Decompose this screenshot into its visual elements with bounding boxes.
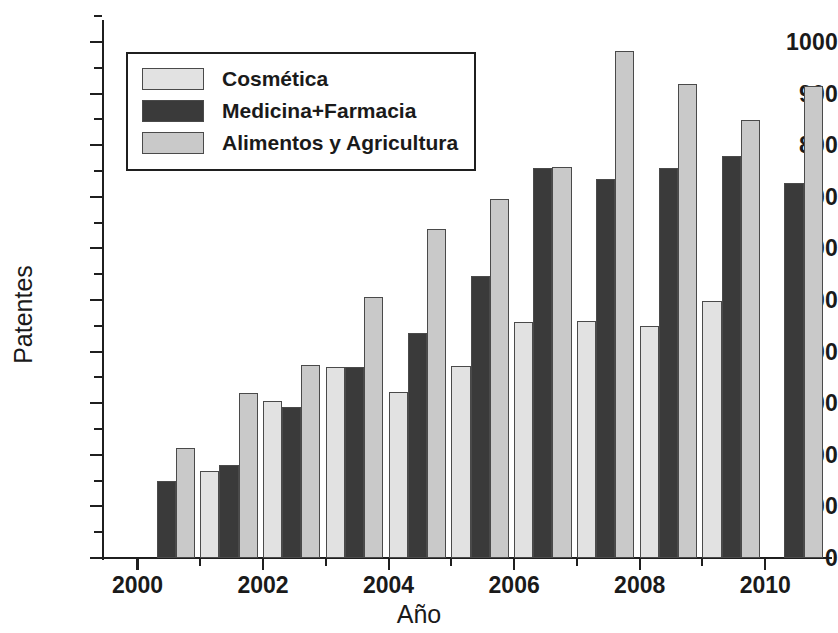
x-tick-major (764, 559, 766, 570)
x-tick-minor (450, 559, 452, 566)
legend-item: Cosmética (142, 63, 464, 95)
chart-legend: CosméticaMedicina+FarmaciaAlimentos y Ag… (126, 52, 476, 171)
legend-swatch-icon (142, 100, 204, 122)
legend-label: Alimentos y Agricultura (222, 131, 458, 155)
y-tick-major (90, 93, 102, 95)
bar (239, 393, 258, 558)
y-tick-minor (94, 273, 102, 275)
bar (741, 120, 760, 558)
y-tick-major (90, 247, 102, 249)
bar (596, 179, 615, 558)
legend-label: Cosmética (222, 67, 328, 91)
y-tick-major (90, 351, 102, 353)
bar (471, 276, 490, 558)
y-tick-minor (94, 67, 102, 69)
y-tick-major (90, 505, 102, 507)
x-tick-minor (576, 559, 578, 566)
legend-swatch-icon (142, 68, 204, 90)
y-tick-major (90, 557, 102, 559)
bar (451, 366, 470, 558)
legend-item: Medicina+Farmacia (142, 95, 464, 127)
x-tick-label: 2010 (710, 572, 820, 599)
bar (533, 168, 552, 558)
bar (784, 183, 803, 558)
bar (176, 448, 195, 558)
bar (659, 168, 678, 558)
x-tick-minor (701, 559, 703, 566)
x-tick-label: 2000 (83, 572, 193, 599)
y-tick-minor (94, 118, 102, 120)
legend-swatch-icon (142, 132, 204, 154)
bar (615, 51, 634, 558)
x-tick-minor (325, 559, 327, 566)
legend-item: Alimentos y Agricultura (142, 127, 464, 159)
bar (722, 156, 741, 558)
x-tick-minor (199, 559, 201, 566)
x-tick-label: 2006 (459, 572, 569, 599)
x-tick-label: 2004 (334, 572, 444, 599)
legend-label: Medicina+Farmacia (222, 99, 416, 123)
y-tick-major (90, 41, 102, 43)
bar (408, 333, 427, 558)
x-tick-major (639, 559, 641, 570)
x-tick-label: 2002 (208, 572, 318, 599)
bar (678, 84, 697, 558)
y-tick-minor (94, 531, 102, 533)
y-tick-minor (94, 15, 102, 17)
bar (345, 367, 364, 558)
bar (301, 365, 320, 559)
bar (490, 199, 509, 558)
bar (263, 401, 282, 558)
y-tick-minor (94, 325, 102, 327)
x-tick-label: 2008 (585, 572, 695, 599)
bar (640, 326, 659, 558)
x-tick-major (513, 559, 515, 570)
bar (326, 367, 345, 558)
x-tick-major (262, 559, 264, 570)
patents-bar-chart: 01002003004005006007008009001000 2000200… (0, 0, 838, 633)
bar (427, 229, 446, 558)
y-tick-major (90, 196, 102, 198)
y-axis-title: Patentes (9, 200, 38, 430)
bar (702, 301, 721, 558)
y-tick-minor (94, 170, 102, 172)
y-tick-major (90, 402, 102, 404)
bar (552, 167, 571, 558)
bar (804, 86, 823, 558)
bar (364, 297, 383, 558)
y-tick-major (90, 144, 102, 146)
y-tick-major (90, 454, 102, 456)
bar (282, 407, 301, 558)
y-tick-minor (94, 428, 102, 430)
x-axis-title: Año (0, 600, 838, 629)
bar (200, 471, 219, 558)
x-tick-major (388, 559, 390, 570)
y-tick-minor (94, 480, 102, 482)
bar (219, 465, 238, 558)
bar (157, 481, 176, 558)
y-tick-major (90, 299, 102, 301)
bar (514, 322, 533, 558)
x-tick-major (136, 559, 138, 570)
bar (577, 321, 596, 558)
y-tick-minor (94, 376, 102, 378)
y-tick-minor (94, 222, 102, 224)
bar (389, 392, 408, 558)
